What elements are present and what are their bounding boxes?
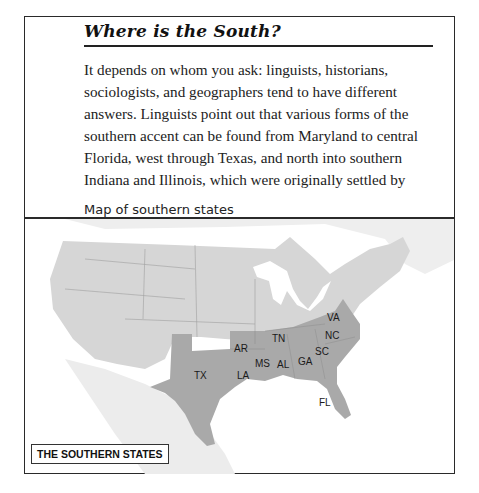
southern-states-map: VA NC TN AR SC MS AL GA TX LA FL THE SOU… <box>25 219 454 474</box>
map-legend-label: THE SOUTHERN STATES <box>31 444 169 464</box>
paragraph-line: sociologists, and geographers tend to ha… <box>84 81 444 103</box>
state-label-fl: FL <box>319 397 331 408</box>
state-label-tn: TN <box>272 333 285 344</box>
state-label-tx: TX <box>194 370 207 381</box>
map-graphic: VA NC TN AR SC MS AL GA TX LA FL <box>25 219 454 474</box>
paragraph-line: southern accent can be found from Maryla… <box>84 125 444 147</box>
paragraph-line: answers. Linguists point out that variou… <box>84 103 444 125</box>
paragraph-line: It depends on whom you ask: linguists, h… <box>84 59 444 81</box>
state-label-ga: GA <box>298 356 313 367</box>
state-label-ms: MS <box>255 358 270 369</box>
article-paragraph: It depends on whom you ask: linguists, h… <box>84 59 444 191</box>
state-label-al: AL <box>277 359 290 370</box>
state-label-sc: SC <box>315 346 329 357</box>
paragraph-line: Florida, west through Texas, and north i… <box>84 147 444 169</box>
state-label-ar: AR <box>234 343 248 354</box>
paragraph-line: Indiana and Illinois, which were origina… <box>84 169 444 191</box>
image-alt-text: Map of southern states <box>84 202 234 217</box>
article-heading: Where is the South? <box>84 21 433 47</box>
article-text-panel: Where is the South? It depends on whom y… <box>25 17 454 218</box>
state-label-nc: NC <box>325 330 339 341</box>
article-frame: Where is the South? It depends on whom y… <box>24 16 455 474</box>
state-label-la: LA <box>237 370 250 381</box>
state-label-va: VA <box>327 312 340 323</box>
